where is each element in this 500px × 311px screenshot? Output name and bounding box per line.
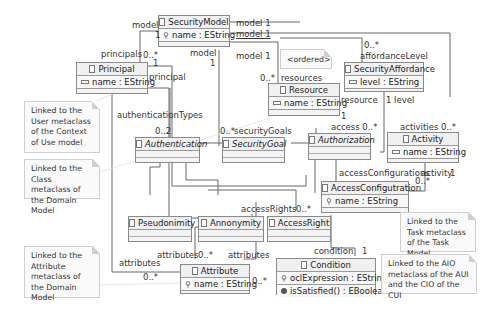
attributes-compartment (309, 147, 370, 154)
note-task: Linked to the Task metaclass of the Task… (400, 212, 476, 252)
multiplicity-label: 0..* (143, 272, 158, 282)
class-icon (403, 135, 409, 143)
class-icon (201, 219, 207, 227)
class-attribute: name : EString (335, 196, 398, 206)
class-name: SecurityGoal (232, 139, 286, 149)
role-label: model 1 (236, 18, 271, 28)
note-attribute: Linked to the Attribute metaclass of the… (24, 246, 100, 298)
role-label: attributes (228, 250, 270, 260)
role-label: model 1 (236, 51, 271, 61)
multiplicity-label: 1 (210, 58, 215, 68)
class-name: Principal (98, 64, 134, 74)
class-icon (322, 184, 328, 192)
note-ordered: <ordered> (280, 49, 332, 69)
class-icon (136, 140, 142, 148)
operations-compartment (223, 158, 284, 164)
operations-compartment (269, 110, 339, 116)
class-icon (280, 86, 286, 94)
class-attribute: level : EString (360, 77, 419, 87)
class-authentication[interactable]: Authentication (135, 137, 200, 163)
role-label: model 1 (236, 29, 271, 39)
note-text: <ordered> (287, 55, 330, 64)
operations-compartment (129, 237, 191, 243)
class-security-affordance[interactable]: SecurityAffordance level : EString (344, 62, 424, 92)
class-attribute[interactable]: Attribute ⚲name : EString (180, 264, 250, 294)
role-label: attributes (157, 250, 199, 260)
class-security-goal[interactable]: SecurityGoal (222, 137, 285, 163)
attributes-compartment (136, 151, 199, 158)
note-class: Linked to the Class metaclass of the Dom… (24, 159, 100, 199)
multiplicity-label: 1 (450, 168, 455, 178)
class-icon (301, 261, 307, 269)
multiplicity-label: 0..* (364, 40, 379, 50)
multiplicity-label: 0..* (252, 276, 267, 286)
class-security-model[interactable]: SecurityModel ⚲name : EString (158, 15, 230, 47)
operations-compartment (388, 159, 458, 165)
multiplicity-label: 0..* (198, 250, 213, 260)
operation-icon (281, 288, 287, 294)
class-name: SecurityAffordance (354, 64, 435, 74)
role-label: access 0..* (331, 122, 377, 132)
class-condition[interactable]: Condition ⚲oclExpression : EString isSat… (276, 258, 376, 295)
multiplicity-label: 1 (362, 246, 367, 256)
role-label: securityGoals (234, 126, 292, 136)
operations-compartment (322, 208, 408, 214)
multiplicity-label: 0..* (296, 204, 311, 214)
role-label: principals (101, 49, 142, 59)
multiplicity-label: 0..* (220, 126, 235, 136)
note-text: Linked to the User metaclass of the Cont… (31, 106, 91, 147)
class-name: Authorization (318, 135, 375, 145)
class-authorization[interactable]: Authorization (308, 133, 371, 160)
class-name: Attribute (201, 266, 239, 276)
role-label: condition (314, 246, 353, 256)
class-attribute: name : EString (403, 147, 466, 157)
key-icon: ⚲ (326, 196, 333, 208)
attribute-icon (81, 80, 89, 84)
class-attribute: name : EString (194, 279, 257, 289)
operations-compartment (136, 158, 199, 164)
attribute-icon (273, 101, 281, 105)
note-aio: Linked to the AIO metaclass of the AUI a… (381, 254, 477, 294)
multiplicity-label: 1 (153, 58, 158, 68)
role-label: accessRights (241, 204, 296, 214)
role-label: authenticationTypes (117, 110, 203, 120)
role-label: activity (421, 168, 452, 178)
class-activity[interactable]: Activity name : EString (387, 132, 459, 163)
attributes-compartment (268, 230, 330, 237)
class-name: Resource (289, 85, 328, 95)
note-user: Linked to the User metaclass of the Cont… (24, 101, 100, 153)
role-label: 1 level (386, 95, 414, 105)
class-icon (192, 267, 198, 275)
class-attribute: name : EString (172, 30, 235, 40)
attributes-compartment (129, 230, 191, 237)
role-label: model (190, 48, 216, 58)
class-name: Pseudonimity (138, 218, 195, 228)
multiplicity-label: 1 (341, 111, 346, 121)
class-icon (269, 219, 275, 227)
class-annonymity[interactable]: Annonymity (198, 216, 264, 242)
note-text: Linked to the Task metaclass of the Task… (407, 217, 466, 258)
class-icon (89, 65, 95, 73)
class-access-configuration[interactable]: AccessConfigutration ⚲name : EString (321, 181, 409, 213)
class-resource[interactable]: Resource name : EString (268, 83, 340, 116)
operations-compartment (309, 154, 370, 160)
class-name: AccessConfigutration (331, 183, 421, 193)
note-text: Linked to the Attribute metaclass of the… (31, 251, 82, 302)
operations-compartment (199, 237, 263, 243)
multiplicity-label: 1 (155, 30, 160, 40)
role-label: affordanceLevel (360, 51, 428, 61)
class-pseudonimity[interactable]: Pseudonimity (128, 216, 192, 242)
role-label: activities 0..* (400, 122, 456, 132)
uml-diagram-canvas: SecurityModel ⚲name : EString Principal … (0, 0, 500, 311)
attribute-icon (392, 150, 400, 154)
class-access-right[interactable]: AccessRight (267, 216, 331, 242)
class-name: Authentication (145, 139, 207, 149)
class-attribute: oclExpression : EString (290, 273, 387, 283)
class-name: Activity (412, 134, 444, 144)
role-label: model (132, 20, 158, 30)
key-icon: ⚲ (185, 279, 192, 291)
class-attribute: name : EString (284, 98, 347, 108)
role-label: principal (149, 72, 186, 82)
attributes-compartment (223, 151, 284, 158)
class-principal[interactable]: Principal name : EString (76, 62, 148, 94)
